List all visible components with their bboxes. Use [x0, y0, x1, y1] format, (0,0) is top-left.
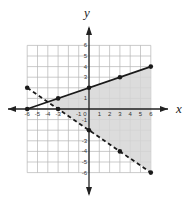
- y-tick-label: -6: [82, 170, 88, 176]
- data-point: [56, 96, 61, 101]
- y-tick-label: -4: [82, 148, 88, 154]
- x-arrow-right-icon: [160, 106, 168, 112]
- data-point: [87, 86, 92, 91]
- x-arrow-left-icon: [8, 106, 16, 112]
- coordinate-graph: -6-5-4-3-1012345665431-1-3-4-5-6 x y: [0, 0, 189, 200]
- y-arrow-up-icon: [86, 26, 92, 35]
- y-axis-label: y: [82, 5, 90, 20]
- x-tick-label: -4: [45, 111, 51, 117]
- x-tick-label: -5: [35, 111, 41, 117]
- data-point: [149, 170, 154, 175]
- data-point: [25, 86, 30, 91]
- y-tick-label: -5: [82, 159, 88, 165]
- x-tick-label: 6: [149, 111, 153, 117]
- x-axis-label: x: [175, 101, 182, 116]
- data-point: [118, 75, 123, 80]
- data-point: [87, 128, 92, 133]
- y-tick-label: -1: [82, 117, 88, 123]
- y-tick-label: -3: [82, 138, 88, 144]
- data-point: [118, 149, 123, 154]
- x-tick-label: -3: [55, 111, 61, 117]
- data-point: [149, 64, 154, 69]
- x-tick-label: -6: [25, 111, 31, 117]
- y-arrow-down-icon: [86, 187, 92, 196]
